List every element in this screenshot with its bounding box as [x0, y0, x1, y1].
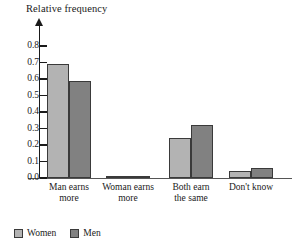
y-axis-tick: [40, 128, 47, 129]
y-axis-tick: [40, 62, 47, 63]
y-axis-tick: [40, 161, 47, 162]
x-axis-category-label-3: Don't know: [212, 182, 290, 193]
men-swatch-icon: [70, 229, 79, 238]
bar-women-3: [229, 171, 251, 178]
y-axis-tick: [40, 111, 47, 112]
y-axis-tick-label: 0.4: [9, 107, 39, 117]
bar-women-2: [169, 138, 191, 178]
legend-label-men: Men: [83, 229, 100, 238]
y-axis-tick-label: 0.8: [9, 41, 39, 51]
y-axis-tick: [40, 177, 47, 178]
category-label-line2: the same: [152, 193, 230, 204]
legend-item-women: Women: [14, 229, 56, 238]
women-swatch-icon: [14, 229, 23, 238]
bar-men-0: [69, 81, 91, 178]
bar-men-3: [251, 168, 273, 178]
y-axis-tick: [40, 45, 47, 46]
bar-chart: Relative frequency 0.00.10.20.30.40.50.6…: [0, 0, 298, 242]
x-axis-line: [28, 178, 292, 179]
legend-item-men: Men: [70, 229, 100, 238]
legend-label-women: Women: [27, 229, 56, 238]
category-label-line1: Don't know: [212, 182, 290, 193]
bar-women-1: [106, 176, 128, 178]
y-axis-tick-label: 0.6: [9, 74, 39, 84]
legend: Women Men: [14, 229, 108, 238]
y-axis-tick-label: 0.2: [9, 140, 39, 150]
y-axis-tick-label: 0.1: [9, 157, 39, 167]
y-axis-tick-label: 0.3: [9, 124, 39, 134]
bar-women-0: [47, 64, 69, 178]
y-axis-tick: [40, 95, 47, 96]
bar-men-2: [191, 125, 213, 178]
bar-men-1: [128, 176, 150, 178]
y-axis-tick: [40, 144, 47, 145]
y-axis-tick-label: 0.5: [9, 91, 39, 101]
y-axis-line: [39, 24, 40, 179]
y-axis-title: Relative frequency: [26, 3, 107, 14]
y-axis-tick-label: 0.7: [9, 58, 39, 68]
y-axis-tick: [40, 78, 47, 79]
